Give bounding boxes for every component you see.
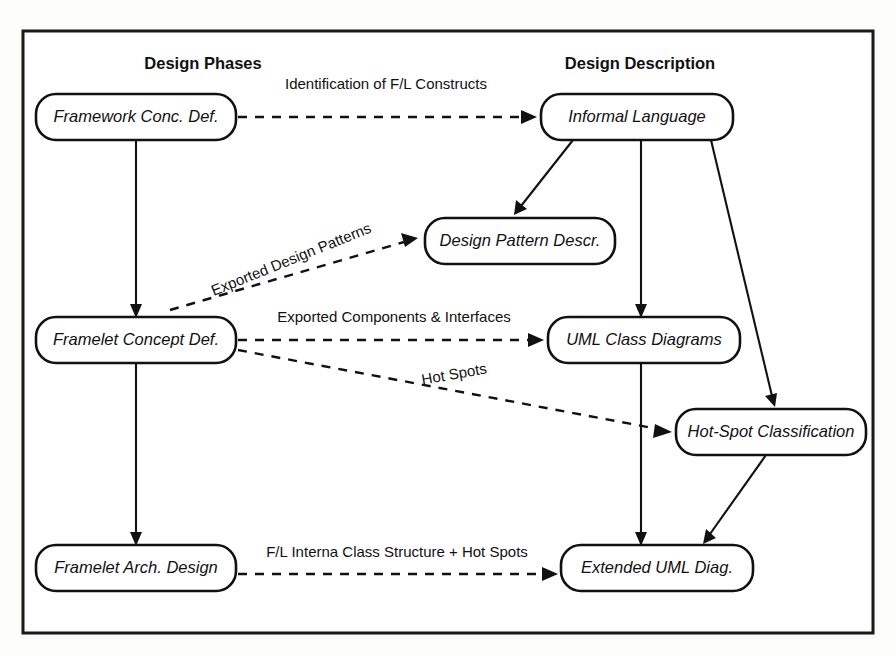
node-hot-spot-classification[interactable]: Hot-Spot Classification bbox=[676, 409, 866, 455]
node-framelet-concept-def[interactable]: Framelet Concept Def. bbox=[36, 317, 236, 363]
node-label-framework-conc-def: Framework Conc. Def. bbox=[53, 107, 218, 125]
node-label-framelet-concept-def: Framelet Concept Def. bbox=[53, 330, 219, 348]
node-label-design-pattern-descr: Design Pattern Descr. bbox=[440, 231, 601, 249]
node-informal-language[interactable]: Informal Language bbox=[541, 94, 733, 140]
node-label-informal-language: Informal Language bbox=[568, 107, 706, 125]
edge-label-fl-interna-class-structure-hot-spots: F/L Interna Class Structure + Hot Spots bbox=[266, 543, 528, 560]
column-header-design-description: Design Description bbox=[565, 54, 715, 72]
node-label-extended-uml-diag: Extended UML Diag. bbox=[581, 558, 733, 576]
node-design-pattern-descr[interactable]: Design Pattern Descr. bbox=[425, 218, 615, 264]
node-extended-uml-diag[interactable]: Extended UML Diag. bbox=[561, 545, 753, 591]
node-framework-conc-def[interactable]: Framework Conc. Def. bbox=[36, 94, 236, 140]
node-framelet-arch-design[interactable]: Framelet Arch. Design bbox=[36, 545, 236, 591]
node-uml-class-diagrams[interactable]: UML Class Diagrams bbox=[548, 317, 740, 363]
column-header-design-phases: Design Phases bbox=[144, 54, 261, 72]
diagram-page: Design Phases Design Description bbox=[0, 0, 896, 656]
node-label-hot-spot-classification: Hot-Spot Classification bbox=[688, 422, 855, 440]
edge-label-exported-components-interfaces: Exported Components & Interfaces bbox=[277, 308, 510, 325]
process-diagram: Design Phases Design Description bbox=[0, 0, 896, 656]
node-label-framelet-arch-design: Framelet Arch. Design bbox=[54, 558, 218, 576]
node-label-uml-class-diagrams: UML Class Diagrams bbox=[566, 330, 722, 348]
edge-label-identification-of-fl-constructs: Identification of F/L Constructs bbox=[285, 75, 487, 92]
